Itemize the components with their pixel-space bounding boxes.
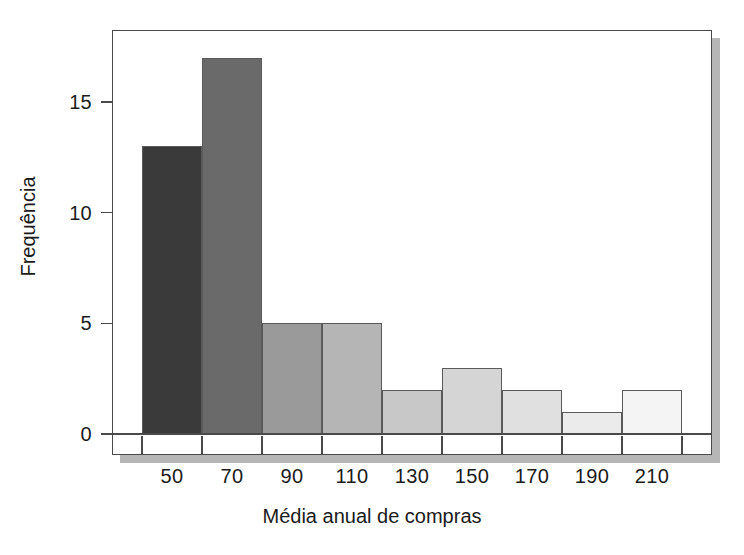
x-tick-80 (261, 436, 263, 454)
y-axis-title: Frequência (17, 127, 40, 327)
x-tick-160 (501, 436, 503, 454)
y-tick-label-0: 0 (32, 424, 92, 444)
y-tick-label-15: 15 (32, 92, 92, 112)
y-tick-10 (101, 212, 112, 214)
x-tick-100 (321, 436, 323, 454)
bar-90 (262, 323, 322, 434)
x-tick-label-210: 210 (617, 466, 687, 486)
y-tick-label-5: 5 (32, 313, 92, 333)
x-axis-title: Média anual de compras (0, 505, 744, 528)
x-axis-baseline (112, 433, 712, 435)
bar-series (112, 30, 712, 434)
y-tick-15 (101, 101, 112, 103)
plot-area (112, 30, 712, 434)
histogram-figure: 051015 507090110130150170190210 Média an… (0, 0, 744, 555)
x-tick-60 (201, 436, 203, 454)
bar-190 (562, 412, 622, 434)
bar-70 (202, 58, 262, 434)
x-tick-140 (441, 436, 443, 454)
x-tick-220 (681, 436, 683, 454)
y-tick-label-10: 10 (32, 203, 92, 223)
bar-110 (322, 323, 382, 434)
bar-150 (442, 368, 502, 434)
bar-130 (382, 390, 442, 434)
x-tick-180 (561, 436, 563, 454)
y-tick-0 (101, 433, 112, 435)
y-tick-5 (101, 323, 112, 325)
x-tick-120 (381, 436, 383, 454)
x-tick-200 (621, 436, 623, 454)
bar-50 (142, 146, 202, 434)
bar-210 (622, 390, 682, 434)
x-tick-40 (141, 436, 143, 454)
bar-170 (502, 390, 562, 434)
